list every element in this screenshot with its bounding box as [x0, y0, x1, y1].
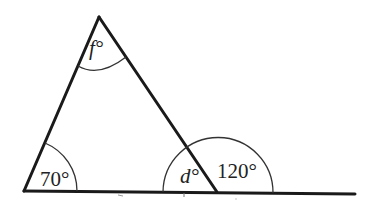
left-side	[24, 17, 99, 191]
interior-right-angle-label: d°	[180, 164, 200, 188]
base-line-extended	[24, 191, 355, 194]
exterior-right-angle-label: 120°	[217, 159, 257, 183]
tick-mark	[118, 195, 123, 196]
triangle-diagram: f° 70° d° 120°	[0, 0, 374, 206]
right-side	[99, 17, 217, 192]
apex-angle-label: f°	[89, 36, 104, 60]
bottom-left-angle-label: 70°	[40, 167, 69, 191]
dot-mark	[235, 198, 237, 200]
